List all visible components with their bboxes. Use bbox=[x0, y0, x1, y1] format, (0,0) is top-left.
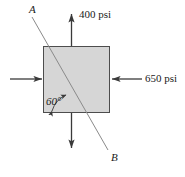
plane-label-b: B bbox=[111, 152, 118, 163]
stress-element-figure: 400 psi 650 psi A B 60° bbox=[0, 0, 185, 177]
plane-label-a: A bbox=[29, 4, 36, 15]
right-stress-label: 650 psi bbox=[145, 73, 177, 84]
top-stress-label: 400 psi bbox=[79, 9, 111, 20]
figure-canvas bbox=[0, 0, 185, 177]
angle-label-60: 60° bbox=[46, 96, 61, 107]
